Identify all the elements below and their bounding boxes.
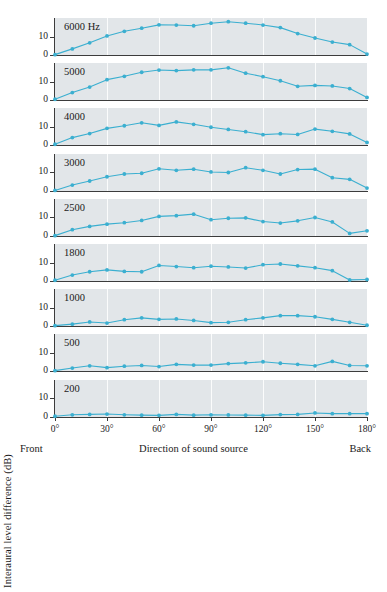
data-point (278, 314, 282, 318)
data-point (192, 167, 196, 171)
y-tick-label: 10 (39, 167, 49, 177)
data-point (174, 69, 178, 73)
data-point (296, 314, 300, 318)
data-point (192, 24, 196, 28)
frequency-panel: 0105000 (55, 63, 367, 100)
data-point (209, 412, 213, 416)
data-point (53, 278, 57, 282)
series-line (55, 122, 367, 144)
data-point (105, 222, 109, 226)
data-point (209, 21, 213, 25)
x-axis-line (54, 55, 368, 56)
data-point (313, 215, 317, 219)
data-point (348, 87, 352, 91)
data-point (157, 166, 161, 170)
data-point (88, 179, 92, 183)
data-point (157, 318, 161, 322)
data-point (53, 369, 57, 373)
data-point (296, 219, 300, 223)
data-point (157, 413, 161, 417)
x-axis-tick-labels: 0°30°60°90°120°150°180° (55, 425, 367, 439)
x-tick-label: 0° (51, 425, 60, 435)
y-tick-label: 10 (39, 213, 49, 223)
data-point (365, 186, 369, 190)
data-point (261, 263, 265, 267)
x-axis-line (54, 281, 368, 282)
data-point (88, 270, 92, 274)
data-point (105, 366, 109, 370)
x-axis-line (54, 371, 368, 372)
back-label: Back (349, 443, 371, 454)
data-series-500 (55, 334, 367, 371)
data-point (192, 413, 196, 417)
x-tick-label: 120° (254, 425, 272, 435)
data-point (53, 188, 57, 192)
data-point (278, 26, 282, 30)
frequency-panel: 0101000 (55, 289, 367, 326)
data-point (53, 324, 57, 328)
data-point (105, 127, 109, 131)
data-point (88, 41, 92, 45)
y-tick-label: 0 (43, 141, 48, 151)
frequency-panel: 0104000 (55, 108, 367, 145)
data-point (296, 363, 300, 367)
y-tick-label: 0 (43, 95, 48, 105)
data-point (122, 124, 126, 128)
data-point (192, 68, 196, 72)
data-point (296, 264, 300, 268)
frequency-panel: 0102500 (55, 199, 367, 236)
data-point (365, 364, 369, 368)
data-point (140, 316, 144, 320)
data-point (330, 318, 334, 322)
x-axis-line (54, 236, 368, 237)
data-point (261, 219, 265, 223)
data-point (226, 413, 230, 417)
frequency-panel: 0103000 (55, 154, 367, 191)
data-point (105, 174, 109, 178)
data-point (53, 98, 57, 102)
data-point (365, 411, 369, 415)
x-tick-mark (107, 417, 108, 421)
y-tick-label: 10 (39, 303, 49, 313)
data-point (70, 412, 74, 416)
data-point (313, 84, 317, 88)
data-point (330, 175, 334, 179)
data-point (122, 29, 126, 33)
data-point (365, 141, 369, 145)
data-point (209, 68, 213, 72)
data-point (348, 364, 352, 368)
data-point (192, 364, 196, 368)
data-point (174, 317, 178, 321)
data-point (365, 96, 369, 100)
data-point (313, 364, 317, 368)
data-series-1800 (55, 244, 367, 281)
data-point (278, 172, 282, 176)
data-point (313, 128, 317, 132)
y-tick-label: 0 (43, 186, 48, 196)
data-point (226, 216, 230, 220)
data-point (226, 128, 230, 132)
data-point (192, 266, 196, 270)
data-point (296, 412, 300, 416)
data-point (174, 120, 178, 124)
data-point (157, 365, 161, 369)
data-point (53, 53, 57, 57)
series-line (55, 22, 367, 55)
data-series-3000 (55, 154, 367, 191)
data-point (70, 322, 74, 326)
data-point (105, 78, 109, 82)
data-point (226, 321, 230, 325)
data-point (209, 218, 213, 222)
data-point (105, 34, 109, 38)
data-point (313, 266, 317, 270)
data-point (209, 170, 213, 174)
data-point (226, 170, 230, 174)
y-tick-label: 10 (39, 77, 49, 87)
data-series-4000 (55, 108, 367, 145)
data-point (88, 412, 92, 416)
x-tick-mark (159, 417, 160, 421)
data-point (70, 183, 74, 187)
data-series-200 (55, 380, 367, 417)
data-point (244, 318, 248, 322)
